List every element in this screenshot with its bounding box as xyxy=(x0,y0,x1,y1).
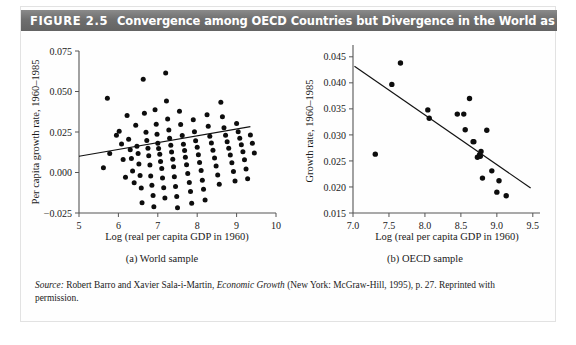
data-point xyxy=(173,184,178,189)
data-point xyxy=(228,153,233,158)
x-tick-label-b: 9.5 xyxy=(527,220,540,231)
x-tick-label-b: 8.0 xyxy=(419,220,432,231)
data-point xyxy=(467,96,472,101)
data-point xyxy=(250,141,255,146)
data-point xyxy=(136,162,141,167)
data-point xyxy=(160,176,165,181)
data-point xyxy=(141,77,146,82)
data-point xyxy=(164,98,169,103)
data-point xyxy=(139,186,144,191)
x-tick-label-a: 5 xyxy=(77,220,82,231)
data-point xyxy=(210,148,215,153)
data-point xyxy=(136,151,141,156)
y-axis-label-b: Growth rate, 1960–1985 xyxy=(304,80,315,183)
page-title: Convergence among OECD Countries but Div… xyxy=(117,14,576,28)
data-point xyxy=(163,71,168,76)
x-tick-label-b: 7.0 xyxy=(347,220,360,231)
data-point xyxy=(166,128,171,133)
data-point xyxy=(215,173,220,178)
y-tick-label-a: 0.025 xyxy=(50,127,73,138)
data-point xyxy=(425,107,430,112)
data-point xyxy=(188,189,193,194)
data-point xyxy=(231,169,236,174)
source-prefix: Source: xyxy=(35,280,64,290)
data-point xyxy=(471,139,476,144)
data-point xyxy=(455,111,460,116)
data-point xyxy=(161,185,166,190)
data-point xyxy=(184,162,189,167)
y-tick-label-a: 0.050 xyxy=(50,86,73,97)
figure-number-label: FIGURE 2.5 xyxy=(30,14,108,28)
data-point xyxy=(105,96,110,101)
data-point xyxy=(121,157,126,162)
data-point xyxy=(138,173,143,178)
data-point xyxy=(145,146,150,151)
data-point xyxy=(236,129,241,134)
data-point xyxy=(489,168,494,173)
data-point xyxy=(142,111,147,116)
data-point xyxy=(151,204,156,209)
data-point xyxy=(157,152,162,157)
data-point xyxy=(125,113,130,118)
data-point xyxy=(201,187,206,192)
data-point xyxy=(185,171,190,176)
data-point xyxy=(199,168,204,173)
y-tick-label-b: 0.025 xyxy=(324,156,347,167)
data-point xyxy=(154,122,159,127)
data-point xyxy=(158,159,163,164)
data-point xyxy=(133,123,138,128)
data-point xyxy=(168,143,173,148)
data-point xyxy=(126,137,131,142)
data-point xyxy=(229,160,234,165)
data-point xyxy=(203,198,208,203)
x-tick-label-a: 8 xyxy=(195,220,200,231)
data-point xyxy=(503,193,508,198)
data-point xyxy=(220,114,225,119)
data-point xyxy=(389,82,394,87)
data-point xyxy=(244,166,249,171)
data-point xyxy=(197,160,202,165)
y-tick-label-b: 0.035 xyxy=(324,103,347,114)
trend-line-b xyxy=(354,66,530,188)
data-point xyxy=(480,175,485,180)
data-point xyxy=(226,146,231,151)
data-point xyxy=(132,180,137,185)
data-point xyxy=(177,109,182,114)
data-point xyxy=(192,129,197,134)
data-point xyxy=(148,174,153,179)
data-point xyxy=(245,176,250,181)
data-point xyxy=(221,125,226,130)
chart-panel-world-sample: Per capita growth rate, 1960–1985 567891… xyxy=(27,35,297,270)
data-point xyxy=(248,132,253,137)
data-point xyxy=(146,153,151,158)
data-point xyxy=(165,117,170,122)
x-tick-label-a: 7 xyxy=(155,220,160,231)
x-tick-label-a: 9 xyxy=(234,220,239,231)
data-point xyxy=(196,152,201,157)
data-point xyxy=(175,205,180,210)
data-point xyxy=(461,111,466,116)
data-point xyxy=(172,174,177,179)
x-axis-label-b: Log (real per capita GDP in 1960) xyxy=(375,231,519,243)
scatter-plot-oecd-sample: Growth rate, 1960–1985 7.07.58.08.59.09.… xyxy=(297,35,553,250)
data-point xyxy=(149,183,154,188)
y-tick-label-b: 0.040 xyxy=(324,77,347,88)
data-point xyxy=(212,155,217,160)
data-point xyxy=(189,201,194,206)
scatter-plot-world-sample: Per capita growth rate, 1960–1985 567891… xyxy=(27,35,297,250)
figure-title-bar: FIGURE 2.5 Convergence among OECD Countr… xyxy=(21,10,557,31)
data-point xyxy=(169,150,174,155)
data-point xyxy=(187,180,192,185)
data-point xyxy=(218,100,223,105)
data-point xyxy=(217,182,222,187)
data-point xyxy=(123,175,128,180)
data-point xyxy=(119,141,124,146)
y-tick-label-a: −0.025 xyxy=(44,208,72,219)
data-point xyxy=(195,145,200,150)
data-point xyxy=(171,164,176,169)
x-axis-label-a: Log (real per capita GDP in 1960) xyxy=(105,231,249,243)
data-point xyxy=(129,156,134,161)
source-authors: Robert Barro and Xavier Sala-i-Martin, xyxy=(64,280,217,290)
data-point xyxy=(223,133,228,138)
data-point xyxy=(178,122,183,127)
